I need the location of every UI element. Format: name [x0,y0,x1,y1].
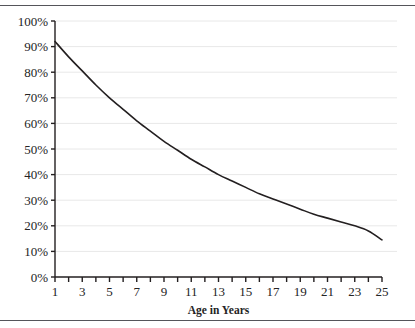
y-axis-tick-labels: 0%10%20%30%40%50%60%70%80%90%100% [18,14,49,285]
x-tick-label: 5 [106,284,113,299]
y-tick-label: 40% [24,167,48,182]
x-tick-label: 7 [134,284,141,299]
x-tick-label: 15 [239,284,252,299]
x-tick-label: 13 [212,284,225,299]
x-tick-label: 11 [185,284,198,299]
y-tick-label: 30% [24,193,48,208]
x-tick-label: 19 [294,284,307,299]
data-line [55,41,382,239]
gridlines [55,21,397,251]
y-tick-label: 90% [24,39,48,54]
x-tick-label: 9 [161,284,168,299]
x-tick-label: 23 [348,284,361,299]
y-tick-label: 60% [24,116,48,131]
x-tick-label: 1 [52,284,59,299]
line-chart-plot: 0%10%20%30%40%50%60%70%80%90%100% 135791… [0,0,415,328]
y-tick-label: 70% [24,90,48,105]
y-tick-label: 0% [31,270,49,285]
y-tick-label: 10% [24,244,48,259]
data-line-group [55,41,382,239]
y-tick-label: 50% [24,142,48,157]
x-axis-ticks [55,277,382,282]
x-tick-label: 21 [321,284,334,299]
x-tick-label: 3 [79,284,86,299]
x-axis-title: Age in Years [188,304,250,317]
y-tick-label: 80% [24,65,48,80]
y-tick-label: 20% [24,218,48,233]
chart-figure: 0%10%20%30%40%50%60%70%80%90%100% 135791… [0,0,415,328]
x-tick-label: 17 [267,284,281,299]
y-tick-label: 100% [18,14,49,29]
x-axis-title-group: Age in Years [188,304,250,317]
x-axis-tick-labels: 135791113151719212325 [52,284,389,299]
x-tick-label: 25 [376,284,389,299]
